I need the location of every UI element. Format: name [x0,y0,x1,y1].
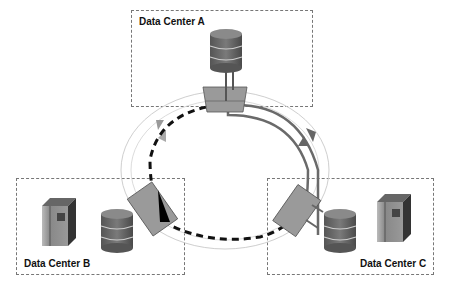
data-center-a-label: Data Center A [139,16,205,27]
data-center-b-label: Data Center B [24,258,90,269]
ring-node-a [203,70,247,112]
database-icon [210,29,242,73]
arrow-icon [156,120,164,130]
ring-diagram [0,0,450,290]
data-center-c-label: Data Center C [360,258,426,269]
server-icon [42,198,76,246]
database-icon [101,209,133,253]
server-icon [377,194,411,242]
database-icon [324,209,356,253]
